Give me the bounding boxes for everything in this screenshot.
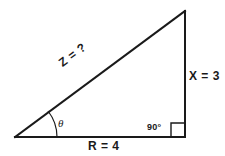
right-angle-label: 90° [147,123,161,132]
vertical-leg-label: X = 3 [189,70,220,82]
right-angle-square-icon [171,123,185,137]
angle-theta-label: θ [58,118,63,129]
horizontal-leg-label: R = 4 [88,140,120,152]
angle-arc-icon [48,111,57,137]
diagram-canvas: Z = ? X = 3 R = 4 90° θ [0,0,225,156]
triangle-side-hypotenuse [15,11,185,137]
